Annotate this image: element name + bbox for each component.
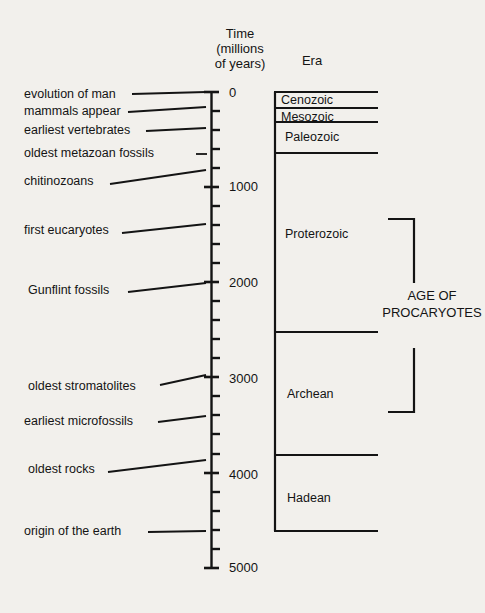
- axis-tick-label-3000: 3000: [229, 371, 258, 386]
- event-label-earliest-microfossils: earliest microfossils: [24, 415, 133, 428]
- era-boundary-rules: [274, 92, 378, 531]
- leader-first-eucaryotes: [122, 224, 206, 233]
- time-axis-header-line2: (millions: [200, 41, 280, 56]
- event-label-oldest-rocks: oldest rocks: [28, 463, 95, 476]
- leader-oldest-rocks: [108, 460, 206, 472]
- axis-tick-label-5000: 5000: [229, 560, 258, 575]
- event-label-origin-of-the-earth: origin of the earth: [24, 525, 121, 538]
- era-label-proterozoic: Proterozoic: [285, 227, 348, 241]
- era-label-mesozoic: Mesozoic: [281, 110, 334, 124]
- event-label-mammals-appear: mammals appear: [24, 105, 121, 118]
- event-label-evolution-of-man: evolution of man: [24, 88, 116, 101]
- annotation-line1: AGE OF: [379, 287, 485, 304]
- era-column-header: Era: [282, 53, 342, 68]
- era-label-paleozoic: Paleozoic: [285, 130, 339, 144]
- event-label-earliest-vertebrates: earliest vertebrates: [24, 124, 130, 137]
- event-label-chitinozoans: chitinozoans: [24, 175, 94, 188]
- era-label-hadean: Hadean: [287, 491, 331, 505]
- leader-earliest-vertebrates: [146, 128, 206, 131]
- leader-oldest-stromatolites: [160, 375, 206, 385]
- axis-minor-ticks: [211, 111, 220, 549]
- event-label-oldest-stromatolites: oldest stromatolites: [28, 380, 136, 393]
- axis-tick-label-0: 0: [229, 85, 236, 100]
- annotation-line2: PROCARYOTES: [379, 304, 485, 321]
- axis-tick-label-2000: 2000: [229, 275, 258, 290]
- leader-chitinozoans: [110, 170, 206, 184]
- event-label-first-eucaryotes: first eucaryotes: [24, 224, 109, 237]
- event-label-oldest-metazoan-fossils: oldest metazoan fossils: [24, 147, 154, 160]
- leader-gunflint-fossils: [128, 283, 206, 292]
- time-axis-header-line1: Time: [200, 26, 280, 41]
- time-axis-header: Time (millions of years): [200, 26, 280, 71]
- timeline-figure: Time (millions of years) Era evolution o…: [0, 0, 485, 613]
- leader-earliest-microfossils: [158, 416, 206, 422]
- leader-origin-of-the-earth: [148, 531, 206, 532]
- axis-tick-label-4000: 4000: [229, 467, 258, 482]
- leader-mammals-appear: [128, 107, 206, 112]
- axis-tick-label-1000: 1000: [229, 179, 258, 194]
- event-label-gunflint-fossils: Gunflint fossils: [28, 284, 109, 297]
- axis-major-ticks: [204, 92, 219, 568]
- annotation-age-of-procaryotes: AGE OF PROCARYOTES: [379, 287, 485, 321]
- era-label-archean: Archean: [287, 387, 334, 401]
- era-label-cenozoic: Cenozoic: [281, 93, 333, 107]
- leader-evolution-of-man: [132, 92, 206, 94]
- time-axis-header-line3: of years): [200, 56, 280, 71]
